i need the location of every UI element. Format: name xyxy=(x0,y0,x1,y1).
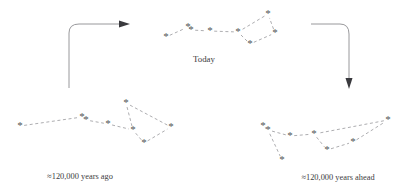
star-glyph: * xyxy=(265,7,271,19)
constellation-stars-past: ******** xyxy=(17,96,174,148)
star-glyph: * xyxy=(265,123,271,135)
star-glyph: * xyxy=(163,30,169,42)
constellation-link xyxy=(331,143,349,149)
star-glyph: * xyxy=(83,113,89,125)
constellation-links-layer xyxy=(24,16,384,156)
caption-past: ≈120,000 years ago xyxy=(47,172,113,181)
flow-arrow-head-icon xyxy=(119,21,130,28)
diagram-canvas: ************************ Today ≈120,000 … xyxy=(0,0,408,192)
constellation-link xyxy=(254,35,271,43)
star-glyph: * xyxy=(287,129,293,141)
constellation-link xyxy=(318,121,384,133)
flow-arrow-present-to-future xyxy=(311,24,353,89)
constellation-stars-future: ******** xyxy=(260,113,391,165)
star-glyph: * xyxy=(279,153,285,165)
constellation-link xyxy=(90,121,104,124)
caption-future: ≈120,000 years ahead xyxy=(301,173,375,182)
constellation-link xyxy=(148,129,168,141)
flow-arrow-line xyxy=(69,24,119,88)
flow-arrow-past-to-present xyxy=(69,21,130,89)
star-glyph: * xyxy=(235,25,241,37)
constellation-link xyxy=(317,137,325,146)
star-glyph: * xyxy=(168,120,174,132)
star-glyph: * xyxy=(207,24,213,36)
star-glyph: * xyxy=(385,113,391,125)
constellation-stars-present: ******** xyxy=(163,7,278,49)
constellation-link xyxy=(241,35,247,41)
constellation-link xyxy=(195,30,206,31)
star-glyph: * xyxy=(247,37,253,49)
constellation-link xyxy=(112,125,129,129)
star-glyph: * xyxy=(17,119,23,131)
stars-layer: ************************ xyxy=(17,7,391,165)
flow-arrow-head-icon xyxy=(346,78,353,89)
star-glyph: * xyxy=(123,96,129,108)
constellation-link xyxy=(130,105,168,125)
constellation-link xyxy=(272,131,286,135)
star-glyph: * xyxy=(324,143,330,155)
constellation-diagram: ************************ Today ≈120,000 … xyxy=(0,0,408,192)
star-glyph: * xyxy=(188,23,194,35)
constellation-link xyxy=(24,118,78,126)
flow-arrow-line xyxy=(311,24,349,78)
star-glyph: * xyxy=(130,123,136,135)
caption-today: Today xyxy=(193,54,215,64)
star-glyph: * xyxy=(350,135,356,147)
constellation-link xyxy=(214,31,234,32)
captions-layer: Today ≈120,000 years ago ≈120,000 years … xyxy=(47,54,375,182)
star-glyph: * xyxy=(141,136,147,148)
star-glyph: * xyxy=(105,117,111,129)
constellation-link xyxy=(294,134,310,135)
constellation-link xyxy=(170,29,184,36)
star-glyph: * xyxy=(311,127,317,139)
constellation-link xyxy=(242,16,265,30)
star-glyph: * xyxy=(272,26,278,38)
